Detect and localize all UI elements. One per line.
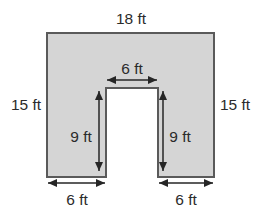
bottom-right-width-label: 6 ft xyxy=(175,191,197,208)
composite-figure-diagram: 18 ft 15 ft 15 ft 6 ft 9 ft 9 ft 6 ft 6 … xyxy=(0,0,259,214)
top-width-label: 18 ft xyxy=(116,10,147,27)
right-height-label: 15 ft xyxy=(220,96,251,113)
notch-depth-left-label: 9 ft xyxy=(70,128,92,145)
composite-shape xyxy=(47,33,214,177)
left-height-label: 15 ft xyxy=(11,96,42,113)
bottom-left-width-label: 6 ft xyxy=(66,191,88,208)
notch-depth-right-label: 9 ft xyxy=(169,128,191,145)
notch-width-label: 6 ft xyxy=(121,60,143,77)
figure-canvas: 18 ft 15 ft 15 ft 6 ft 9 ft 9 ft 6 ft 6 … xyxy=(0,0,259,214)
